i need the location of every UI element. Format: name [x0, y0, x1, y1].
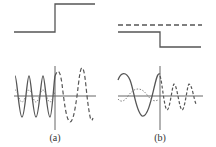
panel-b-incident-wave — [118, 74, 160, 117]
panel-b-potential-step — [118, 25, 202, 47]
figure: (a) (b) — [0, 0, 216, 147]
panel-b-label: (b) — [154, 132, 166, 144]
panel-a-transmitted-wave — [55, 68, 93, 122]
panel-b-transmitted-wave — [160, 76, 196, 110]
panel-a-label: (a) — [49, 132, 60, 144]
panel-a-potential-step — [14, 4, 95, 32]
panel-b-axes — [118, 66, 203, 130]
